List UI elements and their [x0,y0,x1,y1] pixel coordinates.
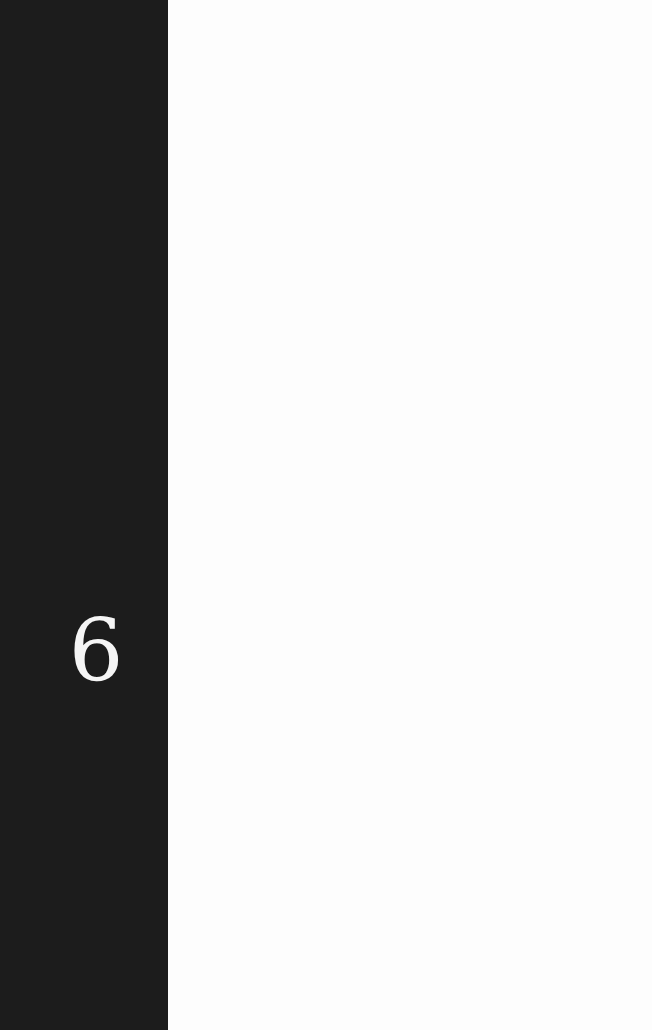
chapter-number: 6 [0,598,168,702]
chapter-side-band: 6 [0,0,168,1030]
chapter-opener-page: 6 [0,0,652,1030]
blank-page-area [168,0,652,1030]
